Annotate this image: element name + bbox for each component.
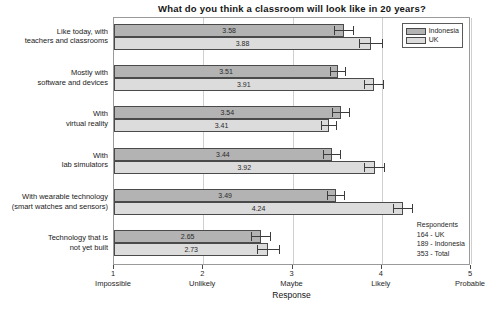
legend-swatch-indonesia xyxy=(406,28,426,35)
x-tick-number: 3 xyxy=(272,269,312,278)
bar-group: 3.543.41 xyxy=(114,106,469,142)
error-bar xyxy=(330,65,346,78)
gridline-5 xyxy=(471,18,472,264)
bar-row: 3.51 xyxy=(114,65,471,78)
category-label-line: teachers and classrooms xyxy=(0,36,108,46)
bar-value-label: 3.44 xyxy=(114,150,332,159)
category-label: With wearable technology(smart watches a… xyxy=(0,192,108,211)
bar-row: 3.91 xyxy=(114,78,471,91)
category-label-line: Like today, with xyxy=(0,27,108,37)
bar-value-label: 3.58 xyxy=(114,26,344,35)
category-axis-labels: Like today, withteachers and classroomsM… xyxy=(0,17,110,265)
category-label-line: lab simulators xyxy=(0,160,108,170)
x-axis-title: Response xyxy=(113,290,470,300)
respondents-line-total: 353 - Total xyxy=(417,249,465,259)
bar-value-label: 3.92 xyxy=(114,163,375,172)
x-tick-number: 4 xyxy=(361,269,401,278)
error-bar xyxy=(251,230,271,243)
bar-row: 4.24 xyxy=(114,202,471,215)
bar-value-label: 2.73 xyxy=(114,245,268,254)
x-tick-word: Probable xyxy=(440,279,490,288)
bar-group: 3.443.92 xyxy=(114,148,469,184)
x-tick-word: Maybe xyxy=(262,279,322,288)
bar-row: 3.92 xyxy=(114,161,471,174)
bar-value-label: 3.91 xyxy=(114,80,374,89)
respondents-line-uk: 164 - UK xyxy=(417,230,465,240)
legend-label-uk: UK xyxy=(429,36,439,44)
category-label-line: With wearable technology xyxy=(0,192,108,202)
chart-title: What do you think a classroom will look … xyxy=(113,3,471,14)
category-label: Like today, withteachers and classrooms xyxy=(0,27,108,46)
bar-value-label: 3.49 xyxy=(114,191,336,200)
legend-swatch-uk xyxy=(406,37,426,44)
bar-value-label: 2.65 xyxy=(114,232,261,241)
category-label: Withvirtual reality xyxy=(0,109,108,128)
respondents-note: Respondents 164 - UK 189 - Indonesia 353… xyxy=(417,220,465,258)
error-bar xyxy=(359,37,382,50)
bar-value-label: 3.51 xyxy=(114,67,338,76)
bar-row: 3.41 xyxy=(114,119,471,132)
bar-value-label: 3.54 xyxy=(114,108,341,117)
category-label: Mostly withsoftware and devices xyxy=(0,68,108,87)
legend-item-indonesia: Indonesia xyxy=(406,27,459,35)
x-tick-word: Likely xyxy=(351,279,411,288)
category-label-line: software and devices xyxy=(0,78,108,88)
bar-group: 3.513.91 xyxy=(114,65,469,101)
legend-label-indonesia: Indonesia xyxy=(429,27,459,35)
error-bar xyxy=(323,148,341,161)
bar-value-label: 3.88 xyxy=(114,39,371,48)
error-bar xyxy=(364,78,384,91)
category-label-line: (smart watches and sensors) xyxy=(0,202,108,212)
error-bar xyxy=(327,189,345,202)
chart-legend: Indonesia UK xyxy=(402,23,463,48)
bar-value-label: 3.41 xyxy=(114,121,329,130)
respondents-heading: Respondents xyxy=(417,220,465,230)
legend-item-uk: UK xyxy=(406,36,459,44)
error-bar xyxy=(332,106,350,119)
error-bar xyxy=(321,119,337,132)
category-label-line: With xyxy=(0,151,108,161)
category-label-line: virtual reality xyxy=(0,119,108,129)
bar-value-label: 4.24 xyxy=(114,204,403,213)
category-label: Withlab simulators xyxy=(0,151,108,170)
error-bar xyxy=(334,24,354,37)
x-tick-number: 2 xyxy=(182,269,222,278)
x-tick-word: Impossible xyxy=(83,279,143,288)
category-label-line: With xyxy=(0,109,108,119)
category-label-line: Technology that is xyxy=(0,233,108,243)
bar-row: 3.49 xyxy=(114,189,471,202)
x-axis: 1Impossible2Unlikely3Maybe4Likely5Probab… xyxy=(113,265,470,309)
category-label-line: not yet built xyxy=(0,243,108,253)
error-bar xyxy=(257,243,280,256)
bar-row: 3.54 xyxy=(114,106,471,119)
error-bar xyxy=(393,202,413,215)
category-label-line: Mostly with xyxy=(0,68,108,78)
plot-area: 3.583.883.513.913.543.413.443.923.494.24… xyxy=(113,17,470,265)
x-tick-number: 1 xyxy=(93,269,133,278)
x-tick-number: 5 xyxy=(450,269,490,278)
x-tick-word: Unlikely xyxy=(172,279,232,288)
error-bar xyxy=(364,161,385,174)
respondents-line-indonesia: 189 - Indonesia xyxy=(417,239,465,249)
category-label: Technology that isnot yet built xyxy=(0,233,108,252)
bar-row: 3.44 xyxy=(114,148,471,161)
